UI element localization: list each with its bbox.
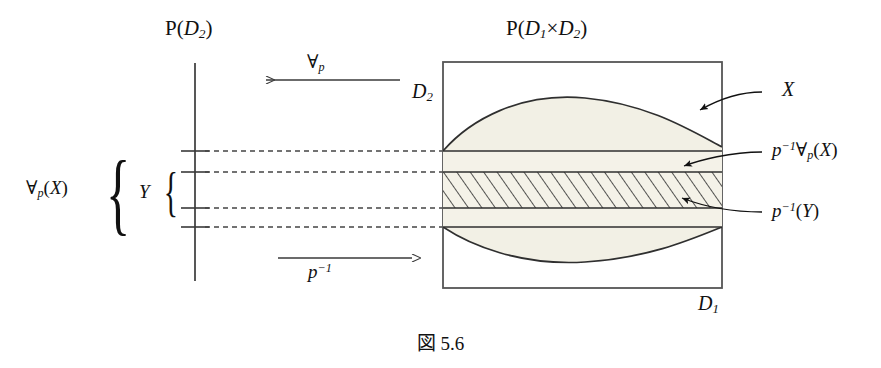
product-box-group	[443, 62, 722, 288]
right-title-close: )	[580, 16, 587, 40]
forall-symbol: ∀	[307, 51, 318, 72]
label-p-inverse-Y: p−1(Y)	[772, 201, 819, 220]
p-inverse-sup: −1	[318, 261, 332, 275]
piy-sup: −1	[782, 200, 796, 214]
left-title-P: P	[165, 16, 177, 40]
label-X: X	[782, 79, 794, 99]
right-title-open: (	[518, 16, 525, 40]
axis-label-D2: D2	[412, 81, 433, 104]
label-p-inverse-forall-p-X: p−1∀p(X)	[772, 140, 838, 161]
forall-arrow-label: ∀p	[307, 52, 325, 73]
piy-p: p	[772, 200, 782, 221]
left-title-open: (	[177, 16, 184, 40]
band-lower-fill	[443, 208, 722, 227]
axis-label-D1-base: D	[698, 292, 712, 314]
piy-arg: Y	[802, 200, 813, 221]
forall-p-X-close: )	[61, 177, 67, 198]
piy-close: )	[813, 200, 819, 221]
axis-label-D1-sub: 1	[712, 302, 718, 316]
p-inverse-base: p	[308, 261, 318, 282]
pifx-close: )	[831, 139, 837, 160]
label-X-text: X	[782, 78, 794, 100]
right-panel-title: P(D1×D2)	[506, 18, 587, 40]
left-title-close: )	[206, 16, 213, 40]
left-axis-group	[181, 63, 209, 281]
brace-forall-p-X: {	[106, 147, 130, 239]
axis-label-D2-sub: 2	[426, 90, 432, 104]
right-title-D1: D	[525, 16, 540, 40]
forall-sub-p: p	[318, 60, 324, 74]
p-inverse-arrow-label: p−1	[308, 262, 332, 281]
dashed-connectors	[205, 151, 443, 227]
right-title-D2: D	[558, 16, 573, 40]
forall-p-X-symbol: ∀	[26, 177, 37, 198]
p-inverse-Y-hatched-band	[443, 172, 722, 208]
right-title-P: P	[506, 16, 518, 40]
right-title-sub1: 1	[540, 26, 547, 41]
pifx-sup: −1	[782, 139, 796, 153]
right-title-times: ×	[547, 16, 559, 40]
axis-label-D1: D1	[698, 293, 719, 316]
left-panel-title: P(D2)	[165, 18, 213, 40]
pifx-p: p	[772, 139, 782, 160]
left-title-D: D	[184, 16, 199, 40]
figure-caption: 図 5.6	[0, 328, 881, 355]
figure-container: P(D2) P(D1×D2) D2 D1 ∀p p−1 ∀p(X) { Y { …	[0, 0, 881, 368]
label-forall-p-X: ∀p(X)	[26, 178, 68, 199]
left-title-sub: 2	[199, 26, 206, 41]
axis-label-D2-base: D	[412, 80, 426, 102]
brace-Y: {	[164, 165, 178, 219]
forall-p-X-arg: X	[50, 177, 62, 198]
pifx-forall: ∀	[796, 139, 807, 160]
arrows-group	[266, 80, 412, 258]
pifx-arg: X	[820, 139, 832, 160]
band-upper-fill	[443, 151, 722, 172]
figure-drawing	[0, 0, 881, 368]
label-Y: Y	[139, 182, 150, 201]
